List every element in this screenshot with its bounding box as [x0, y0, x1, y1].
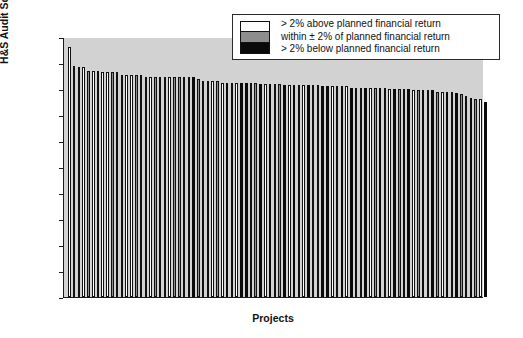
legend-labels: > 2% above planned financial return with…	[281, 18, 450, 56]
bar	[173, 77, 176, 297]
bar	[226, 83, 229, 298]
bar	[431, 90, 434, 297]
bar	[73, 66, 76, 297]
bar	[240, 83, 243, 298]
bar	[97, 71, 100, 297]
y-axis-title-wrapper: H&S Audit Score %	[0, 0, 10, 96]
bar	[321, 86, 324, 297]
bar	[164, 77, 167, 297]
bar	[302, 85, 305, 297]
bar	[202, 81, 205, 297]
bar	[374, 88, 377, 297]
bar	[192, 77, 195, 297]
plot-area	[63, 38, 483, 298]
bar	[211, 81, 214, 297]
bar	[403, 89, 406, 297]
bar	[360, 88, 363, 297]
bar	[317, 85, 320, 297]
chart-legend: > 2% above planned financial return with…	[232, 14, 500, 60]
bar	[121, 75, 124, 297]
bar	[101, 72, 104, 297]
bar	[470, 98, 473, 297]
bar	[92, 71, 95, 297]
legend-label-above: > 2% above planned financial return	[281, 18, 450, 31]
bar	[341, 86, 344, 297]
bar-series	[64, 38, 483, 297]
bar	[451, 92, 454, 297]
legend-swatch-gray	[241, 31, 269, 43]
bar	[106, 72, 109, 297]
bar	[379, 88, 382, 297]
bar	[264, 84, 267, 297]
bar	[283, 85, 286, 297]
bar	[474, 99, 477, 297]
bar	[412, 90, 415, 297]
bar	[288, 85, 291, 297]
bar	[178, 77, 181, 297]
legend-label-below: > 2% below planned financial return	[281, 43, 450, 56]
bar	[82, 67, 85, 297]
bar	[116, 72, 119, 297]
bar	[384, 88, 387, 297]
bar	[111, 72, 114, 297]
bar	[298, 85, 301, 297]
bar	[221, 83, 224, 298]
bar	[259, 84, 262, 297]
bar	[245, 83, 248, 298]
bar	[293, 85, 296, 297]
bar	[216, 81, 219, 297]
bar	[207, 81, 210, 297]
bar	[145, 77, 148, 297]
bar	[465, 96, 468, 298]
bar	[231, 83, 234, 298]
bar	[125, 75, 128, 297]
legend-swatch-stack	[240, 21, 270, 54]
legend-label-within: within ± 2% of planned financial return	[281, 31, 450, 44]
bar	[326, 86, 329, 297]
y-axis-tick-mark	[59, 298, 63, 299]
bar	[336, 86, 339, 297]
bar	[455, 93, 458, 297]
legend-swatch-black	[241, 43, 269, 53]
chart-figure: H&S Audit Score % 109080706050403020100 …	[0, 0, 523, 338]
bar	[369, 88, 372, 297]
bar	[441, 92, 444, 297]
bar	[446, 92, 449, 297]
bar	[436, 92, 439, 297]
bar	[479, 99, 482, 297]
bar	[188, 77, 191, 297]
bar	[140, 75, 143, 297]
bar	[422, 90, 425, 297]
bar	[417, 90, 420, 297]
bar	[484, 102, 487, 297]
bar	[183, 77, 186, 297]
bar	[427, 90, 430, 297]
bar	[307, 85, 310, 297]
bar	[154, 77, 157, 297]
x-axis-title: Projects	[63, 312, 483, 324]
bar	[269, 84, 272, 297]
bar	[250, 83, 253, 298]
bar	[345, 86, 348, 297]
bar	[407, 89, 410, 297]
bar	[68, 47, 71, 297]
bar	[87, 71, 90, 297]
bar	[278, 84, 281, 297]
bar	[274, 84, 277, 297]
bar	[331, 86, 334, 297]
bar	[364, 88, 367, 297]
bar	[197, 79, 200, 297]
bar	[388, 89, 391, 297]
bar	[235, 83, 238, 298]
bar	[135, 75, 138, 297]
bar	[130, 75, 133, 297]
bar	[398, 89, 401, 297]
bar	[312, 85, 315, 297]
bar	[149, 77, 152, 297]
bar	[350, 88, 353, 297]
bar	[254, 83, 257, 298]
bar	[393, 89, 396, 297]
bar	[355, 88, 358, 297]
legend-swatch-white	[241, 22, 269, 32]
bar	[78, 67, 81, 297]
